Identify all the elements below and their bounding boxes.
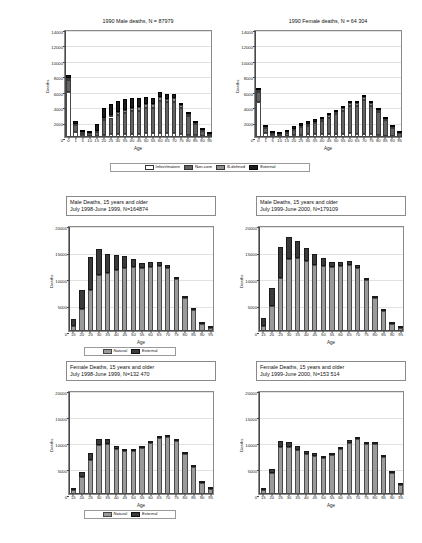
legend-causes-1990: Infect/maternNon-comIll-definedExternal [110,163,310,172]
legend-swatch-illdef [216,165,225,170]
x-tick-mark [176,331,177,333]
x-tick-mark [289,494,290,496]
bar-segment-extern2 [88,257,93,290]
legend-swatch-extern2 [131,349,140,354]
x-tick-mark [272,137,273,139]
chart-title-male9899: Male Deaths, 15 years and olderJuly 1998… [66,196,216,216]
bar-segment-natural [88,290,93,331]
bar-segment-illdef [102,118,106,120]
x-tick-label: 85 [383,139,388,143]
x-tick-mark [297,331,298,333]
x-tick-label: 25 [88,496,93,500]
bar-segment-extern2 [139,263,144,268]
y-axis-label: Deaths [235,80,240,93]
x-tick-label: 15 [261,496,266,500]
bar-segment-natural [286,447,291,494]
legend-causes-female: NaturalExternal [84,510,176,519]
y-tick-label: 6000 [244,93,253,97]
x-tick-mark [73,494,74,496]
x-tick-label: 95 [208,496,213,500]
x-axis-label: Age [64,146,212,151]
x-tick-mark [139,137,140,139]
bar-group-male9900 [259,227,403,331]
bar-segment-external [320,117,324,119]
bar-segment-extern2 [71,319,76,326]
bar-segment-natural [79,309,84,331]
bar-segment-natural [304,261,309,331]
bar-segment-extern2 [286,237,291,260]
plot-area-male9900: 0500010000150002000015202530354045505560… [258,226,404,332]
bar-segment-natural [269,473,274,494]
x-tick-mark [90,494,91,496]
x-tick-mark [131,137,132,139]
x-tick-mark [300,137,301,139]
bar-segment-extern2 [191,308,196,310]
chart-panel-male1990: 1990 Male deaths, N = 879790200040006000… [42,16,220,156]
y-tick-label: 4000 [54,108,63,112]
bar-segment-noncom [334,114,338,133]
bar-segment-extern2 [261,318,266,326]
bar-segment-extern2 [269,469,274,474]
x-tick-mark [159,331,160,333]
x-tick-label: 40 [320,139,325,143]
x-tick-mark [153,137,154,139]
bar-segment-noncom [130,111,134,133]
y-tick-label: 20000 [245,227,257,231]
x-tick-mark [366,331,367,333]
x-tick-mark [73,331,74,333]
y-tick-label: 5000 [248,470,257,474]
bar-segment-noncom [383,120,387,135]
x-tick-label: 35 [123,139,128,143]
x-tick-label: 60 [338,333,343,337]
bar-segment-extern2 [312,453,317,456]
x-tick-mark [336,137,337,139]
bar-segment-external [200,128,204,130]
bar-segment-extern2 [96,439,101,444]
x-tick-label: 45 [312,496,317,500]
bar-segment-noncom [299,127,303,134]
y-axis-line [69,227,70,331]
bar-segment-external [116,101,120,112]
x-tick-mark [263,494,264,496]
bar-segment-extern2 [165,265,170,268]
bar-segment-illdef [369,103,373,105]
bar-segment-external [341,106,345,108]
x-tick-label: 70 [172,139,177,143]
x-tick-mark [124,331,125,333]
x-tick-mark [174,137,175,139]
x-axis-line [65,136,211,137]
x-tick-label: 25 [88,333,93,337]
bar-segment-noncom [158,101,162,133]
bar-segment-illdef [165,99,169,103]
x-tick-mark [210,331,211,333]
x-tick-label: 15 [94,139,99,143]
x-tick-label: 70 [355,496,360,500]
x-tick-mark [150,331,151,333]
x-tick-label: 45 [327,139,332,143]
x-tick-mark [265,137,266,139]
bar-segment-natural [96,445,101,494]
bar-segment-natural [304,454,309,494]
y-tick-label: 14000 [241,31,253,35]
bar-segment-extern2 [191,465,196,467]
chart-panel-male9900: Male Deaths, 15 years and olderJuly 1999… [232,192,410,352]
x-tick-label: 85 [191,333,196,337]
y-axis-line [259,227,260,331]
x-tick-mark [357,137,358,139]
x-tick-mark [110,137,111,139]
bar-segment-extern2 [381,309,386,311]
chart-title-female9900: Female Deaths, 15 years and olderJuly 19… [256,361,406,381]
y-tick-label: 15000 [55,253,67,257]
x-axis-label: Age [258,340,404,345]
x-tick-label: 40 [304,333,309,337]
bar-segment-noncom [172,102,176,134]
x-tick-label: 95 [208,333,213,337]
bar-segment-extern2 [312,254,317,265]
bar-segment-illdef [306,124,310,126]
y-tick-label: 20000 [55,227,67,231]
bar-segment-extern2 [295,241,300,258]
y-axis-line [255,31,256,137]
bar-group-female1990 [255,31,401,137]
chart-title-line-1: Male Deaths, 15 years and older [70,199,212,206]
chart-title-line-1: Female Deaths, 15 years and older [70,364,212,371]
